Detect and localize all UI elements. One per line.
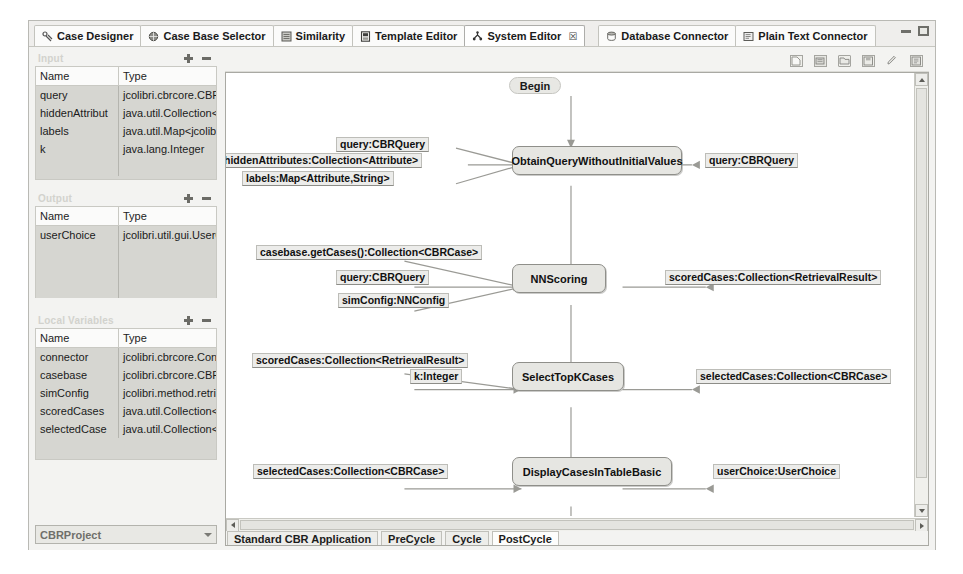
- horizontal-scroll-thumb[interactable]: [240, 520, 914, 530]
- table-row[interactable]: simConfig jcolibri.method.retrie: [36, 384, 216, 402]
- diagram-canvas[interactable]: Begin ObtainQueryWithoutInitialValues qu…: [226, 73, 914, 517]
- new-icon[interactable]: [790, 55, 803, 67]
- diagram-node-select-topk[interactable]: SelectTopKCases: [512, 362, 624, 391]
- diagram-start-node[interactable]: Begin: [509, 77, 561, 94]
- tab-system-editor[interactable]: System Editor ☒: [464, 25, 585, 46]
- bottom-tab-precycle[interactable]: PreCycle: [381, 531, 442, 545]
- cell-type: java.util.Collection<jc: [119, 402, 217, 420]
- system-editor-area: Begin ObtainQueryWithoutInitialValues qu…: [225, 51, 929, 546]
- column-header-type[interactable]: Type: [119, 67, 217, 86]
- bottom-tab-postcycle[interactable]: PostCycle: [492, 531, 559, 545]
- vertical-scrollbar[interactable]: [914, 73, 928, 517]
- output-table[interactable]: Name Type userChoice jcolibri.util.gui.U…: [35, 206, 217, 298]
- minimize-icon[interactable]: [901, 29, 911, 33]
- import-icon[interactable]: [814, 55, 827, 67]
- column-header-name[interactable]: Name: [36, 329, 119, 348]
- maximize-icon[interactable]: [918, 26, 929, 36]
- column-header-name[interactable]: Name: [36, 207, 119, 226]
- local-variables-panel-header: Local Variables: [35, 313, 217, 328]
- diagram-connectors: [226, 73, 914, 517]
- cell-name: selectedCase: [36, 420, 119, 438]
- save-icon[interactable]: [862, 55, 875, 67]
- scroll-left-button[interactable]: [226, 519, 239, 532]
- diagram-node-label: DisplayCasesInTableBasic: [523, 466, 662, 478]
- diagram-output-label[interactable]: query:CBRQuery: [705, 153, 798, 168]
- scroll-down-button[interactable]: [915, 504, 928, 517]
- vertical-scroll-thumb[interactable]: [916, 88, 927, 478]
- diagram-node-obtain-query[interactable]: ObtainQueryWithoutInitialValues: [512, 146, 682, 175]
- editor-body: Input Name Type: [29, 47, 935, 550]
- diagram-node-display-cases[interactable]: DisplayCasesInTableBasic: [512, 457, 672, 486]
- chevron-down-icon[interactable]: [204, 533, 212, 537]
- horizontal-scrollbar[interactable]: [226, 518, 928, 531]
- table-row[interactable]: labels java.util.Map<jcolibri.: [36, 122, 216, 140]
- bottom-tab-cycle[interactable]: Cycle: [445, 531, 488, 545]
- diagram-input-label[interactable]: query:CBRQuery: [336, 270, 429, 285]
- add-output-icon[interactable]: [184, 194, 193, 203]
- tab-database-connector[interactable]: Database Connector: [598, 25, 736, 46]
- input-table[interactable]: Name Type query jcolibri.cbrcore.CBRQ hi…: [35, 66, 217, 180]
- tab-label: Plain Text Connector: [758, 30, 867, 42]
- chevron-up-icon: [919, 78, 925, 82]
- tab-template-editor[interactable]: Template Editor: [352, 25, 465, 46]
- table-row[interactable]: selectedCase java.util.Collection<jc: [36, 420, 216, 438]
- table-row[interactable]: connector jcolibri.cbrcore.Conne: [36, 348, 216, 367]
- table-row[interactable]: hiddenAttribut java.util.Collection<jc: [36, 104, 216, 122]
- add-local-variable-icon[interactable]: [184, 316, 193, 325]
- cell-name: simConfig: [36, 384, 119, 402]
- bottom-tab-standard-cbr-application[interactable]: Standard CBR Application: [227, 531, 378, 545]
- tab-case-designer[interactable]: Case Designer: [34, 25, 141, 46]
- tab-plain-text-connector[interactable]: Plain Text Connector: [735, 25, 875, 46]
- diagram-input-label[interactable]: k:Integer: [410, 369, 462, 384]
- table-row[interactable]: userChoice jcolibri.util.gui.UserCh: [36, 226, 216, 245]
- application-window: Case Designer Case Base Selector Similar…: [28, 20, 936, 550]
- diagram-input-label[interactable]: scoredCases:Collection<RetrievalResult>: [252, 353, 468, 368]
- table-empty-row: [36, 244, 216, 262]
- diagram-output-label[interactable]: userChoice:UserChoice: [713, 464, 840, 479]
- tab-label: Case Base Selector: [163, 30, 265, 42]
- project-selector[interactable]: CBRProject: [35, 525, 217, 544]
- generate-icon[interactable]: [910, 55, 923, 67]
- tab-label: Database Connector: [621, 30, 728, 42]
- remove-input-icon[interactable]: [202, 57, 211, 60]
- diagram-start-label: Begin: [520, 80, 551, 92]
- close-icon[interactable]: ☒: [568, 31, 577, 42]
- column-header-type[interactable]: Type: [119, 329, 217, 348]
- cell-type: jcolibri.cbrcore.Conne: [119, 348, 217, 367]
- column-header-type[interactable]: Type: [119, 207, 217, 226]
- export-icon[interactable]: [838, 55, 851, 67]
- diagram-input-label[interactable]: simConfig:NNConfig: [338, 293, 449, 308]
- add-input-icon[interactable]: [184, 54, 193, 63]
- remove-output-icon[interactable]: [202, 197, 211, 200]
- diagram-input-label[interactable]: casebase.getCases():Collection<CBRCase>: [256, 245, 482, 260]
- window-controls: [901, 26, 929, 36]
- diagram-input-label[interactable]: labels:Map<Attribute,String>: [242, 171, 394, 186]
- scroll-up-button[interactable]: [915, 73, 928, 86]
- diagram-output-label[interactable]: selectedCases:Collection<CBRCase>: [696, 369, 891, 384]
- table-row[interactable]: query jcolibri.cbrcore.CBRQ: [36, 86, 216, 105]
- edit-icon[interactable]: [886, 55, 899, 67]
- cell-name: labels: [36, 122, 119, 140]
- local-variables-panel-title: Local Variables: [38, 315, 184, 326]
- case-designer-icon: [42, 31, 53, 42]
- table-header-row: Name Type: [36, 207, 216, 226]
- table-row[interactable]: k java.lang.Integer: [36, 140, 216, 158]
- column-header-name[interactable]: Name: [36, 67, 119, 86]
- diagram-input-label[interactable]: selectedCases:Collection<CBRCase>: [253, 464, 448, 479]
- cell-type: java.util.Collection<jc: [119, 420, 217, 438]
- remove-local-variable-icon[interactable]: [202, 319, 211, 322]
- local-variables-table[interactable]: Name Type connector jcolibri.cbrcore.Con…: [35, 328, 217, 460]
- cell-name: connector: [36, 348, 119, 367]
- diagram-node-nnscoring[interactable]: NNScoring: [512, 264, 606, 293]
- table-row[interactable]: scoredCases java.util.Collection<jc: [36, 402, 216, 420]
- tab-similarity[interactable]: Similarity: [273, 25, 354, 46]
- diagram-input-label[interactable]: hiddenAttributes:Collection<Attribute>: [226, 153, 422, 168]
- diagram-input-label[interactable]: query:CBRQuery: [336, 137, 429, 152]
- tab-label: System Editor: [487, 30, 561, 42]
- table-row[interactable]: casebase jcolibri.cbrcore.CBRCa: [36, 366, 216, 384]
- input-panel-title: Input: [38, 53, 184, 64]
- diagram-output-label[interactable]: scoredCases:Collection<RetrievalResult>: [665, 270, 881, 285]
- tab-case-base-selector[interactable]: Case Base Selector: [140, 25, 273, 46]
- cell-name: casebase: [36, 366, 119, 384]
- editor-toolbar: [225, 51, 929, 72]
